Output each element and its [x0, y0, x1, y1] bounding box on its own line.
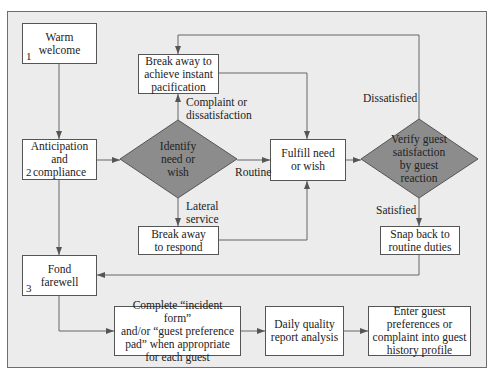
decision-identify: Identify need or wish	[140, 130, 216, 188]
node-label: Daily quality report analysis	[271, 318, 338, 344]
edge-label-lateral: Lateral service	[186, 200, 219, 226]
node-respond: Break away to respond	[138, 226, 219, 255]
edge-label-complaint: Complaint or dissatisfaction	[186, 96, 252, 122]
node-fulfill: Fulfill need or wish	[270, 139, 346, 181]
node-label: Enter guest preferences or complaint int…	[373, 305, 467, 357]
node-label: Break away to achieve instant pacificati…	[144, 55, 213, 94]
edge-label-dissatisfied: Dissatisfied	[363, 92, 417, 105]
node-fond-farewell: Fond farewell 3	[22, 255, 97, 296]
node-label: Break away to respond	[151, 228, 206, 254]
node-label: Fulfill need or wish	[281, 147, 334, 173]
node-daily-quality: Daily quality report analysis	[265, 306, 344, 356]
step-number: 3	[26, 283, 32, 294]
node-enter-guest: Enter guest preferences or complaint int…	[368, 306, 471, 356]
step-number: 2	[26, 167, 32, 178]
node-label: Snap back to routine duties	[389, 228, 452, 254]
node-label: Fond farewell	[41, 263, 79, 289]
node-label: Warm welcome	[39, 31, 81, 57]
edge-label-routine: Routine	[235, 166, 271, 179]
node-pacification: Break away to achieve instant pacificati…	[138, 54, 219, 94]
node-anticipation: Anticipation and compliance 2	[22, 139, 97, 180]
decision-verify: Verify guest satisfaction by guest react…	[378, 130, 460, 188]
node-snap-back: Snap back to routine duties	[380, 226, 460, 255]
step-number: 1	[26, 51, 32, 62]
node-warm-welcome: Warm welcome 1	[22, 23, 97, 64]
node-label: Anticipation and compliance	[31, 140, 89, 179]
edge-label-satisfied: Satisfied	[376, 204, 416, 217]
node-label: Complete “incident form” and/or “guest p…	[118, 299, 237, 364]
node-incident-form: Complete “incident form” and/or “guest p…	[114, 306, 241, 356]
